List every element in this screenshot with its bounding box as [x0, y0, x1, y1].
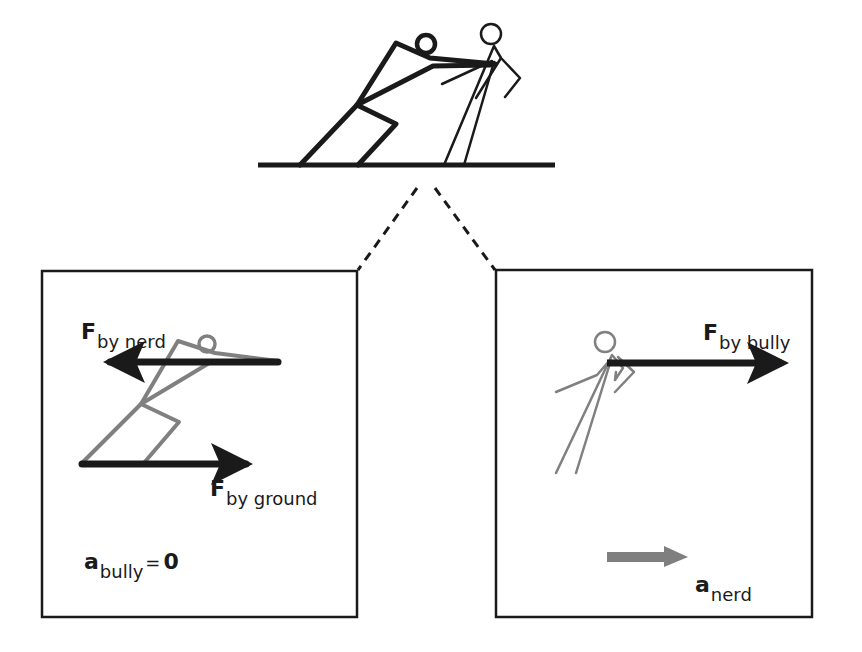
accel-value: 0 [163, 549, 178, 574]
force-subscript: by ground [226, 488, 318, 509]
nerd-figure-top [442, 24, 520, 165]
accel-symbol: a [695, 572, 710, 597]
force-symbol: F [210, 476, 225, 501]
connector-right [435, 188, 495, 270]
label-force-by-ground: Fby ground [210, 478, 318, 500]
diagram-canvas: Fby nerd Fby ground abully=0 Fby bully a… [0, 0, 862, 652]
force-symbol: F [81, 319, 96, 344]
equals-sign: = [145, 552, 160, 573]
label-accel-bully: abully=0 [84, 551, 179, 573]
bully-figure-top [300, 35, 495, 165]
top-scene [258, 24, 555, 165]
force-symbol: F [703, 320, 718, 345]
nerd-figure-fbd [556, 332, 634, 473]
accel-symbol: a [84, 549, 99, 574]
accel-subscript: bully [100, 561, 144, 582]
force-subscript: by bully [719, 332, 790, 353]
accel-subscript: nerd [711, 584, 752, 605]
label-force-by-nerd: Fby nerd [81, 321, 166, 343]
force-subscript: by nerd [97, 331, 166, 352]
nerd-head [481, 24, 501, 44]
connector-left [358, 188, 417, 270]
accel-arrow-nerd [607, 546, 688, 567]
zoom-connectors [358, 188, 495, 270]
bully-head [417, 35, 435, 53]
label-force-by-bully: Fby bully [703, 322, 790, 344]
label-accel-nerd: anerd [695, 574, 752, 596]
bully-figure-fbd [81, 336, 278, 464]
